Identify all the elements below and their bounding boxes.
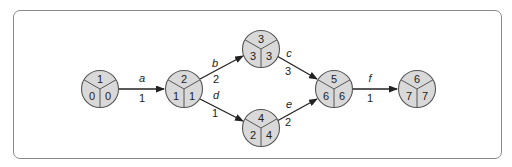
edge-e-activity: e xyxy=(286,98,292,110)
node-1: 1 0 0 xyxy=(82,71,119,108)
node-2: 2 1 1 xyxy=(166,71,203,108)
edge-a-activity: a xyxy=(139,72,145,84)
node-4: 4 2 4 xyxy=(243,110,280,147)
edge-b-activity: b xyxy=(212,57,218,69)
edge-f: f 1 xyxy=(353,72,397,104)
edge-a-duration: 1 xyxy=(139,92,145,104)
node-3-event: 3 xyxy=(258,33,264,45)
node-5-left: 6 xyxy=(323,90,329,102)
edge-c-duration: 3 xyxy=(285,65,291,77)
node-6-event: 6 xyxy=(414,73,420,85)
edge-d-activity: d xyxy=(213,89,220,101)
edge-f-duration: 1 xyxy=(367,92,373,104)
node-4-right: 4 xyxy=(266,129,272,141)
edge-c-activity: c xyxy=(286,47,292,59)
edge-a: a 1 xyxy=(119,72,164,104)
node-6-right: 7 xyxy=(422,90,428,102)
node-1-event: 1 xyxy=(97,73,103,85)
node-4-left: 2 xyxy=(250,129,256,141)
edge-b-duration: 2 xyxy=(213,73,219,85)
node-2-left: 1 xyxy=(173,90,179,102)
edge-c: c 3 xyxy=(277,47,317,79)
edge-e: e 2 xyxy=(277,98,317,128)
node-6: 6 7 7 xyxy=(399,71,436,108)
node-4-event: 4 xyxy=(258,112,264,124)
edge-d-duration: 1 xyxy=(212,107,218,119)
node-6-left: 7 xyxy=(406,90,412,102)
node-2-right: 1 xyxy=(189,90,195,102)
node-5-event: 5 xyxy=(331,73,337,85)
node-1-right: 0 xyxy=(105,90,111,102)
network-diagram: a 1 b 2 d 1 c 3 e 2 f 1 1 0 0 xyxy=(0,0,512,167)
node-5: 5 6 6 xyxy=(316,71,353,108)
node-3: 3 3 3 xyxy=(243,31,280,68)
node-3-right: 3 xyxy=(266,50,272,62)
edge-b: b 2 xyxy=(200,56,243,85)
node-3-left: 3 xyxy=(250,50,256,62)
node-5-right: 6 xyxy=(339,90,345,102)
node-1-left: 0 xyxy=(89,90,95,102)
node-2-event: 2 xyxy=(181,73,187,85)
edge-e-duration: 2 xyxy=(285,116,291,128)
edge-f-activity: f xyxy=(368,72,372,84)
edge-d: d 1 xyxy=(200,89,243,121)
